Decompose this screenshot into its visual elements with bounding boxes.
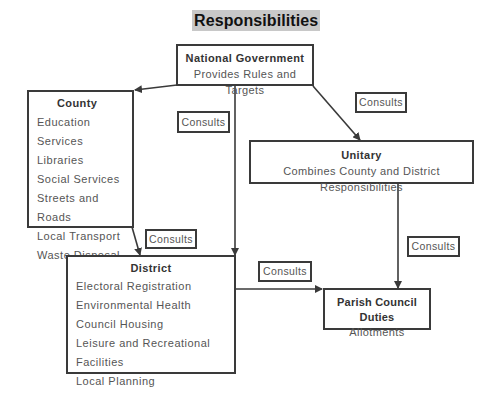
node-unitary-title: Unitary bbox=[251, 147, 472, 163]
node-national-government-subtitle: Provides Rules and Targets bbox=[178, 66, 312, 98]
county-item: Streets and Roads bbox=[37, 189, 132, 227]
county-item: Local Transport bbox=[37, 227, 132, 246]
node-county: County Education Services Libraries Soci… bbox=[27, 90, 134, 228]
district-item: Local Planning bbox=[76, 372, 234, 391]
district-item: Leisure and Recreational Facilities bbox=[76, 334, 234, 372]
node-unitary: Unitary Combines County and District Res… bbox=[249, 140, 474, 184]
county-item: Education Services bbox=[37, 113, 132, 151]
node-national-government-title: National Government bbox=[178, 50, 312, 66]
edge-label-national-to-district: Consults bbox=[177, 111, 230, 133]
district-item: Council Housing bbox=[76, 315, 234, 334]
node-district: District Electoral Registration Environm… bbox=[66, 255, 236, 374]
edge-label-unitary-to-parish: Consults bbox=[407, 236, 460, 257]
diagram-title: Responsibilities bbox=[192, 10, 320, 31]
node-national-government: National Government Provides Rules and T… bbox=[176, 44, 314, 86]
node-district-title: District bbox=[76, 261, 234, 276]
node-district-list: Electoral Registration Environmental Hea… bbox=[76, 277, 234, 391]
district-item: Environmental Health bbox=[76, 296, 234, 315]
county-item: Libraries bbox=[37, 151, 132, 170]
edge-label-district-to-parish: Consults bbox=[258, 261, 312, 282]
arrow-county-to-district bbox=[132, 227, 140, 255]
arrow-national-to-county bbox=[135, 85, 177, 90]
arrow-national-to-unitary bbox=[313, 86, 360, 140]
node-parish-council: Parish Council Duties Allotments bbox=[323, 288, 431, 330]
node-parish-council-title: Parish Council Duties bbox=[325, 295, 429, 325]
node-unitary-subtitle: Combines County and District Responsibil… bbox=[251, 163, 472, 195]
district-item: Electoral Registration bbox=[76, 277, 234, 296]
edge-label-county-to-district: Consults bbox=[145, 229, 197, 249]
node-county-list: Education Services Libraries Social Serv… bbox=[37, 113, 132, 265]
edge-label-national-to-unitary: Consults bbox=[355, 92, 407, 113]
node-parish-council-subtitle: Allotments bbox=[325, 325, 429, 340]
county-item: Social Services bbox=[37, 170, 132, 189]
node-county-title: County bbox=[37, 96, 132, 111]
